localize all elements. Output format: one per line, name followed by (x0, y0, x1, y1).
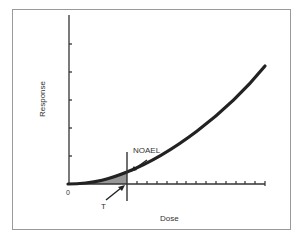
y-axis-label: Response (38, 80, 47, 117)
threshold-label: T (101, 202, 106, 211)
dose-response-curve (68, 66, 265, 184)
noael-label: NOAEL (133, 146, 161, 155)
x-axis-label: Dose (160, 214, 179, 223)
chart-plot: NOAEL T 0 Dose Response (0, 0, 303, 242)
threshold-arrow-icon (106, 185, 125, 200)
origin-label: 0 (66, 189, 70, 196)
